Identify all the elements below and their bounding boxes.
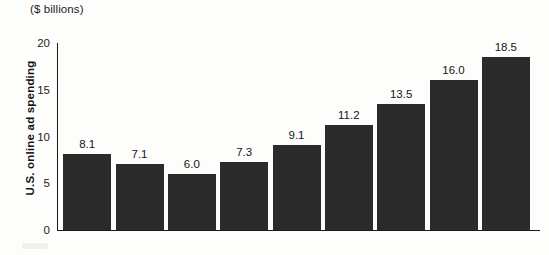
y-tick-label: 5 (44, 177, 50, 189)
bar (482, 57, 530, 230)
y-tick-label: 15 (37, 84, 50, 96)
y-tick-label: 20 (37, 37, 50, 49)
bar (430, 80, 478, 230)
y-tick-label: 10 (37, 131, 50, 143)
bar-value-label: 16.0 (442, 64, 464, 76)
plot-area: 05101520 8.120007.120016.020027.320039.1… (57, 43, 540, 230)
bar-value-label: 7.3 (236, 146, 252, 158)
bar-value-label: 7.1 (132, 148, 148, 160)
bar (220, 162, 268, 230)
bar (273, 145, 321, 230)
bar-value-label: 18.5 (495, 41, 517, 53)
unit-caption: ($ billions) (30, 3, 84, 15)
bar (168, 174, 216, 230)
bar-value-label: 9.1 (289, 129, 305, 141)
y-axis-title: U.S. online ad spending (24, 28, 36, 228)
y-axis-line (57, 43, 58, 230)
bar (63, 154, 111, 230)
scan-artifact (22, 243, 48, 249)
bar (377, 104, 425, 230)
bar (325, 125, 373, 230)
bar-value-label: 6.0 (184, 158, 200, 170)
bar-value-label: 11.2 (338, 109, 360, 121)
bar-value-label: 8.1 (79, 138, 95, 150)
bar-value-label: 13.5 (390, 88, 412, 100)
bar-chart: ($ billions) U.S. online ad spending 051… (0, 0, 549, 255)
bar (116, 164, 164, 230)
y-tick-label: 0 (44, 224, 50, 236)
